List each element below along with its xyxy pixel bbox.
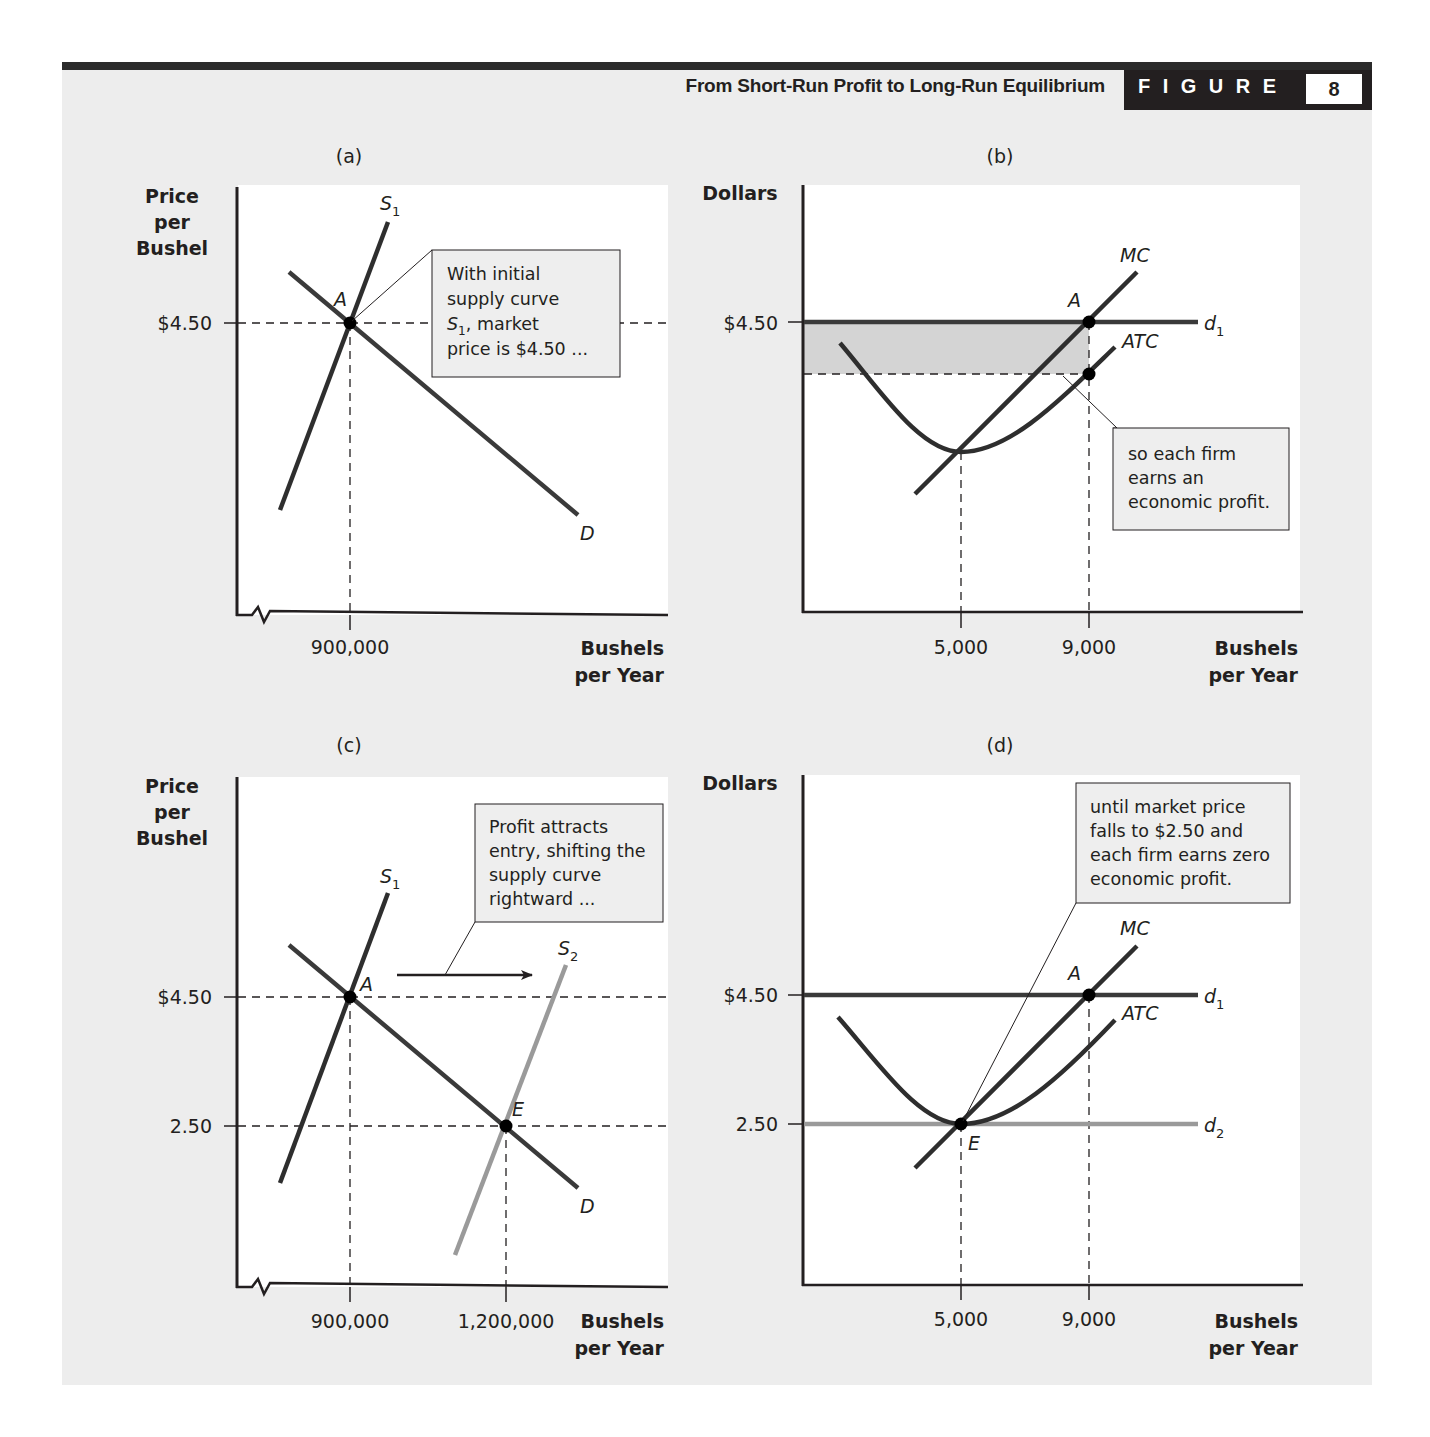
- panel-c: (c) Price per Bushel Bushels per Year $4…: [136, 734, 668, 1359]
- svg-text:economic profit.: economic profit.: [1090, 869, 1232, 889]
- y-tick-450: $4.50: [724, 312, 778, 334]
- panel-label: (d): [987, 734, 1014, 756]
- svg-text:falls to $2.50 and: falls to $2.50 and: [1090, 821, 1243, 841]
- panel-a: (a) Price per Bushel Bushels per Year $4…: [136, 145, 668, 686]
- x-tick-9000: 9,000: [1062, 1308, 1116, 1330]
- x-tick-900000: 900,000: [311, 1310, 390, 1332]
- svg-text:per Year: per Year: [1208, 664, 1298, 686]
- svg-text:per Year: per Year: [574, 664, 664, 686]
- d-label: D: [580, 522, 595, 544]
- svg-text:Bushel: Bushel: [136, 237, 208, 259]
- svg-text:Bushels: Bushels: [1214, 1310, 1298, 1332]
- point-e-label: E: [512, 1098, 524, 1120]
- svg-text:so each firm: so each firm: [1128, 444, 1236, 464]
- svg-text:per Year: per Year: [574, 1337, 664, 1359]
- svg-text:price is $4.50 ...: price is $4.50 ...: [447, 339, 588, 359]
- svg-text:Bushels: Bushels: [1214, 637, 1298, 659]
- mc-label: MC: [1120, 244, 1150, 266]
- x-tick-900000: 900,000: [311, 636, 390, 658]
- y-axis-title: Price per Bushel: [136, 185, 208, 259]
- svg-text:Price: Price: [145, 185, 199, 207]
- x-axis-title: Bushels per Year: [574, 1310, 664, 1359]
- svg-text:supply curve: supply curve: [489, 865, 601, 885]
- x-axis-title: Bushels per Year: [1208, 637, 1298, 686]
- svg-text:economic profit.: economic profit.: [1128, 492, 1270, 512]
- panel-label: (a): [336, 145, 362, 167]
- svg-text:per: per: [154, 801, 190, 823]
- svg-text:Profit attracts: Profit attracts: [489, 817, 608, 837]
- y-tick-450: $4.50: [158, 312, 212, 334]
- point-a: [344, 991, 357, 1004]
- svg-text:each firm earns zero: each firm earns zero: [1090, 845, 1270, 865]
- y-tick-450: $4.50: [158, 986, 212, 1008]
- y-tick-250: 2.50: [170, 1115, 212, 1137]
- svg-text:Bushel: Bushel: [136, 827, 208, 849]
- point-e: [500, 1120, 513, 1133]
- svg-text:Bushels: Bushels: [580, 1310, 664, 1332]
- svg-text:per: per: [154, 211, 190, 233]
- y-tick-450: $4.50: [724, 984, 778, 1006]
- svg-text:Bushels: Bushels: [580, 637, 664, 659]
- svg-text:per Year: per Year: [1208, 1337, 1298, 1359]
- y-axis-title: Dollars: [702, 182, 777, 204]
- point-a-label: A: [1066, 962, 1081, 984]
- panel-b: (b) Dollars Bushels per Year $4.50 5,000…: [702, 145, 1303, 686]
- svg-text:With initial: With initial: [447, 264, 540, 284]
- svg-text:supply curve: supply curve: [447, 289, 559, 309]
- panel-d: (d) Dollars Bushels per Year $4.50 2.50 …: [702, 734, 1303, 1359]
- x-axis-title: Bushels per Year: [574, 637, 664, 686]
- point-a: [1083, 316, 1096, 329]
- point-a-label: A: [1066, 289, 1081, 311]
- mc-label: MC: [1120, 917, 1150, 939]
- point-e-label: E: [968, 1132, 980, 1154]
- atc-label: ATC: [1120, 330, 1159, 352]
- svg-text:Price: Price: [145, 775, 199, 797]
- y-axis-title: Price per Bushel: [136, 775, 208, 849]
- plot-area: [804, 185, 1300, 612]
- point-e: [955, 1118, 968, 1131]
- panel-label: (c): [336, 734, 361, 756]
- x-tick-9000: 9,000: [1062, 636, 1116, 658]
- x-tick-5000: 5,000: [934, 636, 988, 658]
- figure-panels: (a) Price per Bushel Bushels per Year $4…: [0, 0, 1430, 1437]
- x-tick-5000: 5,000: [934, 1308, 988, 1330]
- svg-text:earns an: earns an: [1128, 468, 1204, 488]
- point-a-label: A: [358, 973, 373, 995]
- point-a: [1083, 989, 1096, 1002]
- svg-text:entry, shifting the: entry, shifting the: [489, 841, 646, 861]
- x-axis-title: Bushels per Year: [1208, 1310, 1298, 1359]
- svg-text:until market price: until market price: [1090, 797, 1246, 817]
- atc-label: ATC: [1120, 1002, 1159, 1024]
- x-tick-1200000: 1,200,000: [458, 1310, 555, 1332]
- panel-label: (b): [987, 145, 1014, 167]
- point-atc-9000: [1083, 368, 1096, 381]
- svg-text:rightward ...: rightward ...: [489, 889, 595, 909]
- d-label: D: [580, 1195, 595, 1217]
- point-a-label: A: [332, 288, 347, 310]
- y-tick-250: 2.50: [736, 1113, 778, 1135]
- y-axis-title: Dollars: [702, 772, 777, 794]
